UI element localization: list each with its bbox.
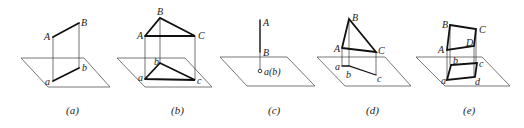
caption-e: (e) <box>463 104 476 117</box>
quad-abcd <box>447 63 477 80</box>
figure-b: A B C a b c (b) <box>117 6 212 117</box>
figure-c: A B a(b) (c) <box>220 17 315 117</box>
label-A: A <box>136 30 144 41</box>
label-B: B <box>442 19 448 30</box>
label-a: a <box>45 76 50 87</box>
label-A: A <box>333 43 341 54</box>
label-A: A <box>437 44 445 55</box>
label-c: c <box>377 73 382 84</box>
label-b: b <box>453 55 458 66</box>
label-b: b <box>82 62 87 73</box>
label-A: A <box>262 17 270 28</box>
triangle-abc <box>145 63 195 80</box>
point-ab <box>258 69 262 73</box>
triangle-ABC <box>342 19 376 52</box>
label-D: D <box>465 37 474 48</box>
label-c: c <box>479 58 484 69</box>
label-C: C <box>378 45 385 56</box>
caption-c: (c) <box>268 104 281 117</box>
label-d: d <box>475 76 481 87</box>
caption-b: (b) <box>171 104 184 117</box>
label-B: B <box>81 17 87 28</box>
label-c: c <box>197 75 202 86</box>
figure-a: A B a b (a) <box>21 17 110 117</box>
label-C: C <box>198 30 205 41</box>
line-ab <box>53 68 79 81</box>
figure-e: B C A D b c a d (e) <box>416 19 510 117</box>
label-b: b <box>346 69 351 80</box>
figure-d: A B C a b c (d) <box>317 12 411 117</box>
label-a: a <box>138 72 143 83</box>
line-AB <box>53 23 79 37</box>
label-b: b <box>154 56 159 67</box>
caption-a: (a) <box>66 104 79 117</box>
label-B: B <box>352 12 358 23</box>
triangle-ABC <box>145 18 195 36</box>
label-B: B <box>263 47 269 58</box>
label-A: A <box>43 31 51 42</box>
projection-plane <box>416 57 510 86</box>
label-a: a <box>441 75 446 86</box>
label-ab: a(b) <box>264 66 281 78</box>
label-a: a <box>335 61 340 72</box>
label-B: B <box>157 6 163 17</box>
projection-plane <box>21 58 110 87</box>
label-C: C <box>479 24 486 35</box>
caption-d: (d) <box>366 104 379 117</box>
